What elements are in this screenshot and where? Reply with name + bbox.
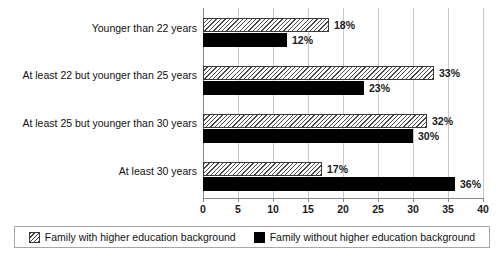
x-tick-label-0: 0 [183, 203, 223, 215]
category-label-3: At least 30 years [0, 165, 197, 177]
gridline-40 [483, 8, 484, 198]
bar-series0-cat0[interactable] [203, 18, 329, 32]
category-label-2: At least 25 but younger than 30 years [0, 117, 197, 129]
bar-series1-cat2[interactable] [203, 129, 413, 143]
x-tick-label-25: 25 [358, 203, 398, 215]
bar-value-series1-cat1: 23% [369, 81, 390, 95]
x-tick-label-35: 35 [428, 203, 468, 215]
x-tick-20 [343, 198, 344, 202]
x-tick-label-30: 30 [393, 203, 433, 215]
x-tick-15 [308, 198, 309, 202]
bar-value-series1-cat2: 30% [418, 129, 439, 143]
bar-group-0: 18% 12% [203, 18, 483, 52]
bar-series1-cat0[interactable] [203, 33, 287, 47]
bar-series0-cat3[interactable] [203, 162, 322, 176]
bar-group-2: 32% 30% [203, 114, 483, 148]
x-tick-label-20: 20 [323, 203, 363, 215]
bar-value-series0-cat2: 32% [432, 114, 453, 128]
solid-swatch-icon [254, 232, 265, 243]
x-tick-label-5: 5 [218, 203, 258, 215]
bar-group-1: 33% 23% [203, 66, 483, 100]
legend-label-0: Family with higher education background [45, 231, 236, 243]
x-tick-5 [238, 198, 239, 202]
x-tick-25 [378, 198, 379, 202]
bar-value-series1-cat3: 36% [460, 177, 481, 191]
category-label-1: At least 22 but younger than 25 years [0, 69, 197, 81]
bar-value-series0-cat1: 33% [439, 66, 460, 80]
x-tick-30 [413, 198, 414, 202]
bar-series0-cat2[interactable] [203, 114, 427, 128]
bar-series1-cat1[interactable] [203, 81, 364, 95]
bar-series1-cat3[interactable] [203, 177, 455, 191]
bar-group-3: 17% 36% [203, 162, 483, 196]
x-tick-40 [483, 198, 484, 202]
legend-item-0[interactable]: Family with higher education background [29, 231, 236, 243]
x-tick-label-10: 10 [253, 203, 293, 215]
legend-label-1: Family without higher education backgrou… [270, 231, 475, 243]
bar-chart-figure: Younger than 22 years At least 22 but yo… [0, 0, 503, 262]
x-tick-label-15: 15 [288, 203, 328, 215]
bar-value-series0-cat0: 18% [334, 18, 355, 32]
x-tick-0 [203, 198, 204, 202]
category-label-0: Younger than 22 years [0, 22, 197, 34]
plot-area: 18% 12% 33% 23% 32% 30% 17% 36% [203, 8, 483, 198]
x-tick-label-40: 40 [463, 203, 503, 215]
bar-value-series1-cat0: 12% [292, 33, 313, 47]
bar-value-series0-cat3: 17% [327, 162, 348, 176]
bar-series0-cat1[interactable] [203, 66, 434, 80]
x-tick-35 [448, 198, 449, 202]
hatched-swatch-icon [29, 232, 40, 243]
legend-item-1[interactable]: Family without higher education backgrou… [254, 231, 475, 243]
x-tick-10 [273, 198, 274, 202]
chart-legend: Family with higher education background … [14, 226, 490, 248]
